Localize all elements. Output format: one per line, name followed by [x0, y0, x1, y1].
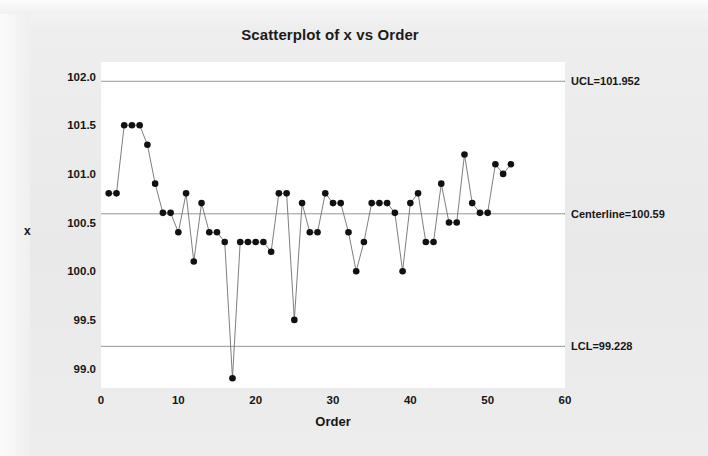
data-point — [361, 239, 368, 246]
data-point — [121, 122, 128, 129]
reference-label-centerline: Centerline=100.59 — [571, 208, 665, 220]
data-point — [399, 268, 406, 275]
x-tick-label: 0 — [81, 394, 121, 406]
data-point — [144, 141, 151, 148]
data-point — [368, 200, 375, 207]
y-tick-label: 99.0 — [50, 363, 96, 375]
x-tick-label: 60 — [545, 394, 585, 406]
data-point — [469, 200, 476, 207]
data-point — [191, 258, 198, 265]
x-tick-label: 20 — [236, 394, 276, 406]
data-point — [461, 151, 468, 158]
data-point — [345, 229, 352, 236]
data-point — [407, 200, 414, 207]
reference-label-ucl: UCL=101.952 — [571, 75, 640, 87]
data-point — [500, 171, 507, 178]
data-point — [508, 161, 515, 168]
plot-background — [101, 62, 565, 388]
data-point — [484, 210, 491, 217]
data-point — [183, 190, 190, 197]
data-point — [237, 239, 244, 246]
data-point — [245, 239, 252, 246]
x-tick-label: 50 — [468, 394, 508, 406]
x-tick-label: 40 — [390, 394, 430, 406]
data-point — [167, 210, 174, 217]
data-point — [136, 122, 143, 129]
y-tick-label: 101.0 — [50, 168, 96, 180]
data-point — [299, 200, 306, 207]
data-point — [229, 375, 236, 382]
y-axis-title: x — [24, 224, 31, 238]
data-point — [453, 219, 460, 226]
plot-area — [101, 62, 565, 388]
data-point — [291, 317, 298, 324]
data-point — [415, 190, 422, 197]
data-point — [446, 219, 453, 226]
data-point — [268, 248, 275, 255]
data-point — [477, 210, 484, 217]
data-point — [160, 210, 167, 217]
reference-label-lcl: LCL=99.228 — [571, 340, 632, 352]
data-point — [206, 229, 213, 236]
data-point — [353, 268, 360, 275]
data-point — [307, 229, 314, 236]
x-tick-label: 10 — [158, 394, 198, 406]
data-point — [113, 190, 120, 197]
data-point — [283, 190, 290, 197]
data-point — [198, 200, 205, 207]
y-axis-tick-labels: 102.0101.5101.0100.5100.099.599.0 — [46, 0, 96, 456]
chart-title: Scatterplot of x vs Order — [0, 26, 660, 43]
data-point — [392, 210, 399, 217]
data-point — [314, 229, 321, 236]
data-point — [214, 229, 221, 236]
data-point — [252, 239, 259, 246]
data-point — [322, 190, 329, 197]
data-point — [337, 200, 344, 207]
x-axis-title: Order — [101, 414, 565, 429]
y-tick-label: 100.0 — [50, 265, 96, 277]
scatterplot-figure: Scatterplot of x vs Order x 102.0101.510… — [0, 0, 708, 456]
x-tick-label: 30 — [313, 394, 353, 406]
data-point — [276, 190, 283, 197]
y-tick-label: 99.5 — [50, 314, 96, 326]
plot-svg — [101, 62, 565, 388]
data-point — [105, 190, 112, 197]
data-point — [438, 180, 445, 187]
data-point — [384, 200, 391, 207]
y-tick-label: 102.0 — [50, 71, 96, 83]
data-point — [430, 239, 437, 246]
data-point — [152, 180, 159, 187]
data-point — [492, 161, 499, 168]
y-tick-label: 100.5 — [50, 217, 96, 229]
data-point — [423, 239, 430, 246]
data-point — [175, 229, 182, 236]
data-point — [221, 239, 228, 246]
data-point — [129, 122, 136, 129]
y-tick-label: 101.5 — [50, 119, 96, 131]
scanned-page: Scatterplot of x vs Order x 102.0101.510… — [0, 0, 708, 456]
data-point — [260, 239, 267, 246]
data-point — [376, 200, 383, 207]
data-point — [330, 200, 337, 207]
